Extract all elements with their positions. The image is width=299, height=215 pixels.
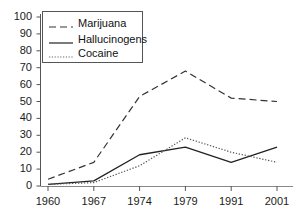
x-tick-label: 1960 (28, 195, 68, 207)
y-tick-label: 60 (6, 78, 32, 90)
legend-item-marijuana: Marijuana (49, 15, 126, 31)
x-tick-label: 1974 (120, 195, 160, 207)
y-axis-ticks (37, 17, 41, 186)
legend-label-cocaine: Cocaine (78, 48, 118, 59)
data-series-group (48, 71, 277, 184)
legend: Marijuana Hallucinogens Cocaine (42, 11, 143, 63)
y-tick-label: 0 (6, 179, 32, 191)
y-tick-label: 20 (6, 145, 32, 157)
series-line-cocaine (48, 138, 277, 184)
x-tick-label: 1979 (165, 195, 205, 207)
x-tick-label: 1991 (211, 195, 251, 207)
legend-label-marijuana: Marijuana (78, 18, 126, 29)
legend-swatch-solid-icon (49, 34, 73, 44)
legend-swatch-dashed-icon (49, 18, 73, 28)
legend-label-hallucinogens: Hallucinogens (78, 34, 147, 45)
legend-item-cocaine: Cocaine (49, 45, 118, 61)
y-tick-label: 10 (6, 162, 32, 174)
series-line-marijuana (48, 71, 277, 179)
y-tick-label: 100 (6, 10, 32, 22)
y-tick-label: 40 (6, 111, 32, 123)
legend-swatch-dotted-icon (49, 48, 73, 58)
line-chart: 0102030405060708090100 19601967197419791… (0, 0, 299, 215)
y-tick-label: 90 (6, 27, 32, 39)
y-tick-label: 50 (6, 95, 32, 107)
y-tick-label: 30 (6, 128, 32, 140)
y-tick-label: 70 (6, 61, 32, 73)
series-line-hallucinogens (48, 147, 277, 184)
y-tick-label: 80 (6, 44, 32, 56)
x-tick-label: 1967 (74, 195, 114, 207)
x-tick-label: 2001 (257, 195, 297, 207)
